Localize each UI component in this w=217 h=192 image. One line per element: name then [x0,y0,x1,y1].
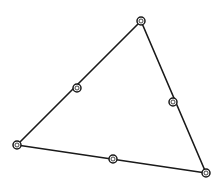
node-circle-icon [169,98,177,106]
triangle-nodes [13,17,210,177]
midpoint-BC [109,155,117,163]
triangle-edges [17,21,206,173]
vertex-B [13,141,21,149]
node-circle-icon [73,84,81,92]
node-circle-icon [13,141,21,149]
node-circle-icon [202,169,210,177]
vertex-C [202,169,210,177]
edge-CA [141,21,206,173]
node-circle-icon [137,17,145,25]
midpoint-AC [169,98,177,106]
midpoint-AB [73,84,81,92]
vertex-A [137,17,145,25]
triangle-diagram [0,0,217,192]
edge-AB [17,21,141,145]
node-circle-icon [109,155,117,163]
